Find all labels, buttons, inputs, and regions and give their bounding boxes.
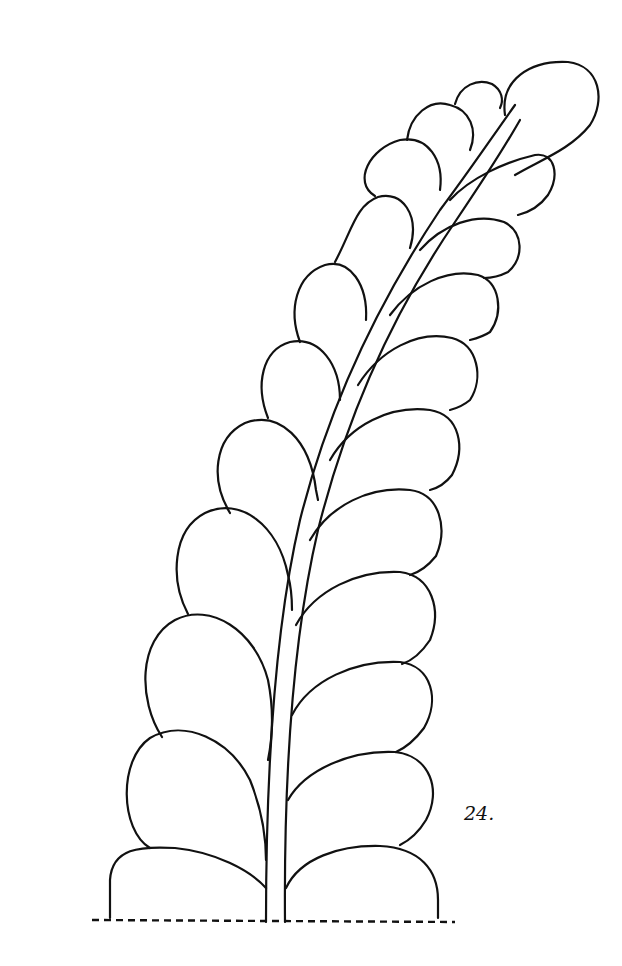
pinna-left xyxy=(365,139,441,196)
pinna-left xyxy=(335,196,413,262)
pinna-left xyxy=(218,420,318,513)
pinna-left xyxy=(455,82,502,108)
pinna-right xyxy=(310,489,441,575)
stem-left-edge xyxy=(266,105,515,922)
pinna-left xyxy=(110,847,266,918)
ground-line xyxy=(92,920,455,922)
pinna-right xyxy=(288,752,433,845)
pinna-right xyxy=(296,572,435,664)
pinna-terminal xyxy=(504,62,598,175)
pinna-left xyxy=(407,103,473,150)
pinna-right xyxy=(390,273,498,340)
pinna-right xyxy=(420,219,520,278)
figure-number-label: 24. xyxy=(464,802,494,824)
pinna-right xyxy=(330,409,459,490)
pinna-left xyxy=(295,264,367,342)
pinna-right xyxy=(358,336,477,410)
pinna-right xyxy=(286,846,438,918)
pinna-left xyxy=(262,341,340,418)
pinna-left xyxy=(177,508,292,614)
fern-frond-drawing xyxy=(0,0,622,966)
pinna-left xyxy=(127,730,266,860)
pinna-right xyxy=(292,662,432,752)
